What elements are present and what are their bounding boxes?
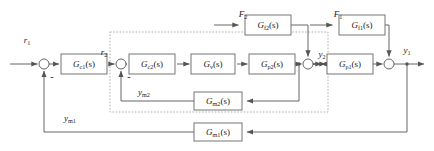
block-label-gp2: Gp2(s)	[261, 60, 283, 69]
wire-gf2-to-sum3	[291, 25, 308, 57]
sign-minus-sum1: -	[50, 72, 53, 82]
block-label-gf2: Gf2(s)	[257, 21, 278, 30]
block-label-gm2: Gm2(s)	[206, 97, 230, 106]
block-label-gm1: Gm1(s)	[206, 128, 230, 137]
wire-gm1-to-sum1	[44, 71, 194, 132]
signal-label-ym2: ym2	[138, 88, 150, 97]
wire-gm2-to-sum2	[121, 71, 194, 101]
block-label-gc2: Gc2(s)	[141, 60, 163, 69]
signal-label-F1: F1	[334, 10, 343, 19]
signal-label-y2: y2	[318, 50, 325, 59]
signal-label-ym1: ym1	[64, 114, 76, 123]
blocks-group	[61, 15, 385, 141]
summing-junction-4	[384, 59, 394, 69]
signal-label-r1: r1	[24, 36, 31, 45]
signal-label-y1: y1	[403, 46, 410, 55]
block-label-gp1: Gp1(s)	[339, 60, 361, 69]
junction-dot-y1	[405, 62, 408, 65]
summing-junction-3	[303, 59, 313, 69]
signal-label-r2: r2	[101, 48, 108, 57]
block-label-gc1: Gc1(s)	[73, 60, 95, 69]
signal-label-F2: F2	[239, 10, 248, 19]
summing-junction-2	[116, 59, 126, 69]
block-label-gv: Gv(s)	[203, 60, 222, 69]
sign-minus-sum2: -	[127, 72, 130, 82]
block-diagram-canvas: Gc1(s) Gc2(s) Gv(s) Gp2(s) Gp1(s) Gf2(s)…	[0, 0, 434, 151]
summing-junction-1	[39, 59, 49, 69]
junction-dot-y2	[297, 62, 300, 65]
wire-gf1-to-sum4	[385, 25, 389, 57]
block-label-gf1: Gf1(s)	[351, 21, 372, 30]
